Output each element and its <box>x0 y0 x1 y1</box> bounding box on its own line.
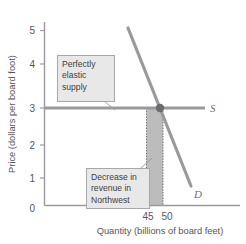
callout-perfectly-elastic-supply: Perfectly elastic supply <box>57 55 115 102</box>
callout-supply-line-1: Perfectly <box>62 59 110 70</box>
supply-curve-label: S <box>210 102 216 114</box>
demand-curve-label: D <box>193 188 202 200</box>
x-tick-label-45: 45 <box>142 211 154 222</box>
y-tick-label-3: 3 <box>29 103 35 114</box>
y-axis-title: Price (dollars per board foot) <box>7 55 17 173</box>
callout-revenue-line-1: Decrease in <box>91 172 145 183</box>
supply-demand-chart: 5 4 3 2 1 0 45 50 Price (dollars per boa… <box>0 0 246 244</box>
callout-supply-line-2: elastic <box>62 70 110 81</box>
y-tick-label-1: 1 <box>29 173 35 184</box>
y-tick-label-2: 2 <box>29 140 35 151</box>
y-tick-label-5: 5 <box>29 25 35 36</box>
callout-revenue-line-3: Northwest <box>91 195 145 206</box>
origin-label: 0 <box>29 203 35 214</box>
callout-decrease-in-revenue: Decrease in revenue in Northwest <box>86 168 150 209</box>
x-axis-title: Quantity (billions of board feet) <box>97 226 224 236</box>
equilibrium-point-dot <box>156 104 164 112</box>
x-tick-label-50: 50 <box>161 211 173 222</box>
callout-revenue-line-2: revenue in <box>91 183 145 194</box>
callout-supply-line-3: supply <box>62 82 110 93</box>
y-tick-label-4: 4 <box>29 59 35 70</box>
